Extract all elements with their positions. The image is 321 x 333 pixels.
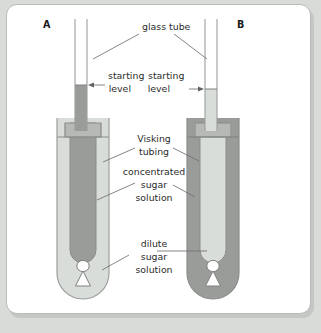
panel-b: B	[157, 19, 244, 299]
label-visking-tubing-line2: tubing	[139, 146, 169, 157]
label-starting-level-right-line2: level	[148, 83, 170, 94]
glass-tube-b	[205, 19, 217, 131]
arrowhead-starting-level-b	[198, 86, 204, 91]
label-glass-tube: glass tube	[142, 21, 191, 32]
glass-tube-a-liquid-column	[75, 85, 87, 131]
leader-glass-tube-b	[174, 34, 207, 59]
visking-tubing-b-body	[200, 123, 226, 263]
label-starting-level-right-line1: starting	[148, 70, 184, 81]
label-concentrated-line2: sugar	[141, 179, 168, 190]
label-dilute-line2: sugar	[141, 251, 168, 262]
label-concentrated-line3: solution	[135, 192, 172, 203]
label-concentrated-line1: concentrated	[123, 166, 185, 177]
callout-labels: glass tube starting level starting level…	[108, 21, 191, 275]
leader-glass-tube-a	[93, 34, 139, 59]
label-starting-level-left-line2: level	[109, 83, 131, 94]
panel-letter-a: A	[43, 19, 51, 30]
arrowhead-starting-level-a	[88, 82, 94, 87]
glass-tube-b-liquid-column	[205, 89, 217, 131]
label-dilute-line3: solution	[135, 264, 172, 275]
panel-letter-b: B	[237, 19, 244, 30]
label-dilute-line1: dilute	[141, 238, 168, 249]
osmosis-visking-tubing-diagram: A	[7, 5, 310, 313]
panel-a: A	[43, 19, 139, 299]
glass-tube-a	[75, 19, 87, 131]
figure-frame: A	[6, 4, 311, 314]
visking-tubing-a-body	[70, 123, 96, 263]
label-visking-tubing-line1: Visking	[137, 133, 171, 144]
label-starting-level-left-line1: starting	[108, 70, 144, 81]
